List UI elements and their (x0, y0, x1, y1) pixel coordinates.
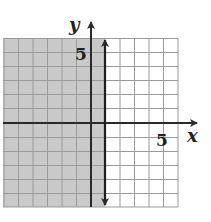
x-tick-label: 5 (156, 130, 168, 150)
x-axis-label: x (186, 125, 198, 146)
y-tick-label: 5 (75, 44, 87, 64)
y-axis-label: y (68, 14, 81, 35)
inequality-graph: y 5 5 x (0, 0, 211, 222)
